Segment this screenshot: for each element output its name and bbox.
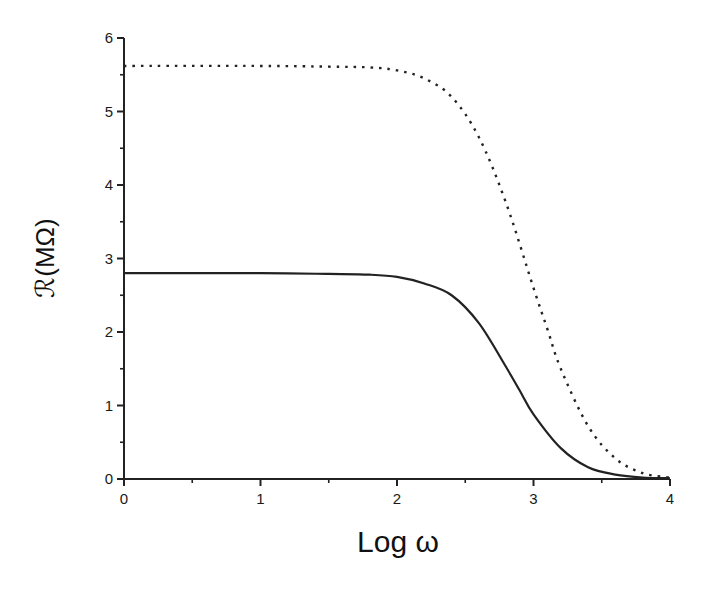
y-tick-label: 6 (105, 29, 113, 46)
series-solid-line (124, 273, 670, 478)
y-tick-label: 2 (105, 323, 113, 340)
y-axis-title-text: ℛ(MΩ) (30, 218, 60, 297)
x-axis-title: Log ω (357, 525, 439, 558)
y-tick-label: 3 (105, 250, 113, 267)
x-tick-label: 2 (393, 490, 401, 507)
x-tick-label: 3 (529, 490, 537, 507)
series-dotted-line (124, 66, 670, 478)
x-tick-label: 4 (666, 490, 674, 507)
y-tick-label: 1 (105, 397, 113, 414)
plot-series (124, 66, 670, 478)
axes: 012345601234 (105, 29, 675, 507)
line-chart: 012345601234 Log ω ℛ(MΩ) (0, 0, 702, 592)
y-tick-label: 0 (105, 470, 113, 487)
y-axis-title: ℛ(MΩ) (30, 218, 60, 297)
x-tick-label: 0 (120, 490, 128, 507)
x-tick-label: 1 (256, 490, 264, 507)
y-tick-label: 5 (105, 103, 113, 120)
y-tick-label: 4 (105, 176, 113, 193)
